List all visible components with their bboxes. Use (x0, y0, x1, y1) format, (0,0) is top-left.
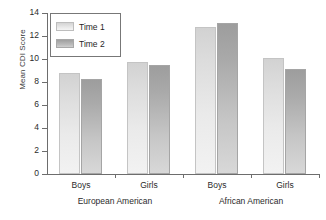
bar-time-2-girls-3 (285, 69, 306, 174)
bar-chart: Mean CDI Score 02468101214 BoysGirlsBoys… (0, 0, 326, 220)
y-tick-10: 10 (42, 59, 47, 60)
y-axis-line (47, 13, 48, 174)
bar-time-2-boys-2 (217, 23, 238, 174)
legend-item-time-2: Time 2 (56, 37, 105, 50)
legend-swatch-time-2 (56, 39, 74, 48)
bar-time-1-boys-2 (195, 27, 216, 174)
y-tick-label-0: 0 (34, 168, 39, 178)
x-category-label-2-boys: Boys (187, 180, 247, 190)
y-tick-label-14: 14 (30, 7, 39, 17)
bar-time-2-girls-1 (149, 65, 170, 174)
legend-label-time-1: Time 1 (79, 22, 105, 32)
bar-time-2-boys-0 (81, 79, 102, 174)
x-axis-separator-4 (319, 174, 320, 178)
legend-label-time-2: Time 2 (79, 39, 105, 49)
x-axis-separator-3 (251, 174, 252, 178)
y-tick-12: 12 (42, 36, 47, 37)
y-tick-14: 14 (42, 13, 47, 14)
legend-item-time-1: Time 1 (56, 20, 105, 33)
x-category-label-1-girls: Girls (119, 180, 179, 190)
x-axis-separator-1 (115, 174, 116, 178)
x-axis-separator-2 (183, 174, 184, 178)
x-group-label-1: African American (181, 196, 321, 206)
y-axis-label: Mean CDI Score (18, 0, 27, 120)
y-tick-label-6: 6 (34, 99, 39, 109)
y-tick-label-4: 4 (34, 122, 39, 132)
x-category-label-3-girls: Girls (255, 180, 315, 190)
legend-swatch-time-1 (56, 22, 74, 31)
x-category-label-0-boys: Boys (51, 180, 111, 190)
y-tick-label-12: 12 (30, 30, 39, 40)
x-group-label-0: European American (45, 196, 185, 206)
y-tick-8: 8 (42, 82, 47, 83)
bar-time-1-girls-3 (263, 58, 284, 174)
y-tick-0: 0 (42, 174, 47, 175)
y-tick-label-10: 10 (30, 53, 39, 63)
y-tick-2: 2 (42, 151, 47, 152)
y-tick-4: 4 (42, 128, 47, 129)
y-tick-6: 6 (42, 105, 47, 106)
y-tick-label-2: 2 (34, 145, 39, 155)
y-tick-label-8: 8 (34, 76, 39, 86)
bar-time-1-boys-0 (59, 73, 80, 174)
bar-time-1-girls-1 (127, 62, 148, 174)
legend-box: Time 1 Time 2 (50, 13, 121, 57)
